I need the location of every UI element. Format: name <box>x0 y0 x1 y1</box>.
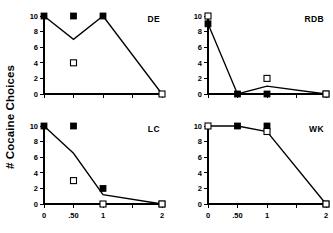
lc-x-tick-labels: 0 .50 1 2 <box>42 211 164 220</box>
panel-lc-plot: 10 8 6 4 2 0 <box>22 116 167 231</box>
y-tick-0: 0 <box>34 90 38 99</box>
y-tick-10: 10 <box>30 12 38 21</box>
panel-title-wk: WK <box>309 124 324 134</box>
panel-de: 10 8 6 4 2 0 <box>22 6 167 111</box>
y-tick-4: 4 <box>198 59 203 68</box>
rdb-data-line <box>208 24 326 94</box>
x-tick-2: 2 <box>324 211 328 220</box>
y-tick-8: 8 <box>198 137 202 146</box>
wk-y-tick-labels: 10 8 6 4 2 0 <box>194 122 203 209</box>
y-tick-4: 4 <box>198 169 203 178</box>
y-tick-8: 8 <box>34 27 38 36</box>
de-x-tick-marks <box>44 94 162 98</box>
x-tick-1: 1 <box>101 211 105 220</box>
y-tick-10: 10 <box>30 122 38 131</box>
x-tick-050: .50 <box>68 211 78 220</box>
y-tick-6: 6 <box>34 43 38 52</box>
panel-rdb: 10 8 6 4 2 0 <box>186 6 331 111</box>
x-tick-0: 0 <box>42 211 46 220</box>
x-tick-1: 1 <box>265 211 269 220</box>
y-tick-0: 0 <box>34 200 38 209</box>
wk-x-tick-marks <box>208 204 326 208</box>
wk-data-line <box>208 126 326 204</box>
de-data-line <box>44 16 162 94</box>
rdb-open-markers <box>205 13 329 97</box>
y-tick-2: 2 <box>198 74 202 83</box>
y-tick-10: 10 <box>194 122 202 131</box>
y-tick-2: 2 <box>34 74 38 83</box>
wk-axes <box>208 126 326 204</box>
panel-title-rdb: RDB <box>304 14 324 24</box>
y-tick-6: 6 <box>198 153 202 162</box>
panel-title-de: DE <box>147 14 160 24</box>
panel-title-lc: LC <box>148 124 160 134</box>
de-y-tick-marks <box>40 16 44 94</box>
rdb-axes <box>208 16 326 94</box>
lc-axes <box>44 126 162 204</box>
panel-wk: 10 8 6 4 2 0 <box>186 116 331 231</box>
x-tick-2: 2 <box>160 211 164 220</box>
de-y-tick-labels: 10 8 6 4 2 0 <box>30 12 39 99</box>
figure-root: # Cocaine Choices 10 8 6 4 2 0 <box>0 0 333 233</box>
y-tick-4: 4 <box>34 169 39 178</box>
y-tick-0: 0 <box>198 90 202 99</box>
y-tick-6: 6 <box>198 43 202 52</box>
wk-open-markers <box>205 123 329 207</box>
lc-data-line <box>44 126 162 204</box>
panel-wk-plot: 10 8 6 4 2 0 <box>186 116 331 231</box>
panel-rdb-plot: 10 8 6 4 2 0 <box>186 6 331 111</box>
de-filled-markers <box>41 13 106 19</box>
x-tick-050: .50 <box>232 211 242 220</box>
y-tick-4: 4 <box>34 59 39 68</box>
y-tick-6: 6 <box>34 153 38 162</box>
rdb-y-tick-labels: 10 8 6 4 2 0 <box>194 12 203 99</box>
y-axis-label: # Cocaine Choices <box>0 0 20 233</box>
lc-y-tick-marks <box>40 126 44 204</box>
wk-filled-markers <box>235 123 330 207</box>
wk-x-tick-labels: 0 .50 1 2 <box>206 211 328 220</box>
y-tick-2: 2 <box>198 184 202 193</box>
lc-y-tick-labels: 10 8 6 4 2 0 <box>30 122 39 209</box>
y-tick-10: 10 <box>194 12 202 21</box>
y-axis-label-text: # Cocaine Choices <box>4 65 16 169</box>
y-tick-8: 8 <box>198 27 202 36</box>
de-axes <box>44 16 162 94</box>
y-tick-8: 8 <box>34 137 38 146</box>
y-tick-0: 0 <box>198 200 202 209</box>
panel-de-plot: 10 8 6 4 2 0 <box>22 6 167 111</box>
rdb-y-tick-marks <box>204 16 208 94</box>
panel-lc: 10 8 6 4 2 0 <box>22 116 167 231</box>
wk-y-tick-marks <box>204 126 208 204</box>
x-tick-0: 0 <box>206 211 210 220</box>
y-tick-2: 2 <box>34 184 38 193</box>
